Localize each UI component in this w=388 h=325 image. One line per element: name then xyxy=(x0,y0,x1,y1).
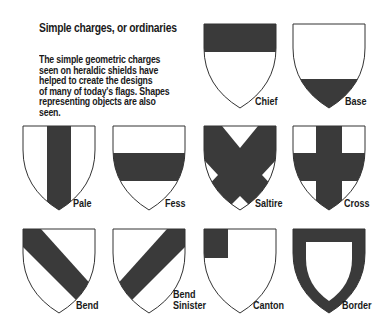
page-title: Simple charges, or ordinaries xyxy=(39,21,177,35)
shield-label: Base xyxy=(345,96,367,107)
shield-label: Saltire xyxy=(255,198,283,209)
shield-label: Canton xyxy=(253,300,284,311)
shield-label: Chief xyxy=(255,96,278,107)
shield-label: Bend xyxy=(76,300,99,311)
description: The simple geometric charges seen on her… xyxy=(39,55,169,118)
shield-label: Bend Sinister xyxy=(173,289,206,311)
description-line: helped to create the designs xyxy=(39,76,169,87)
shield-label: Pale xyxy=(73,198,92,209)
shield-label: Fess xyxy=(165,198,186,209)
description-line: representing objects are also xyxy=(39,97,169,108)
shield-label-line: Sinister xyxy=(173,300,206,311)
description-line: The simple geometric charges xyxy=(39,55,169,66)
description-line: seen. xyxy=(39,108,169,119)
shield-label: Border xyxy=(342,300,372,311)
shield-label: Cross xyxy=(344,198,370,209)
